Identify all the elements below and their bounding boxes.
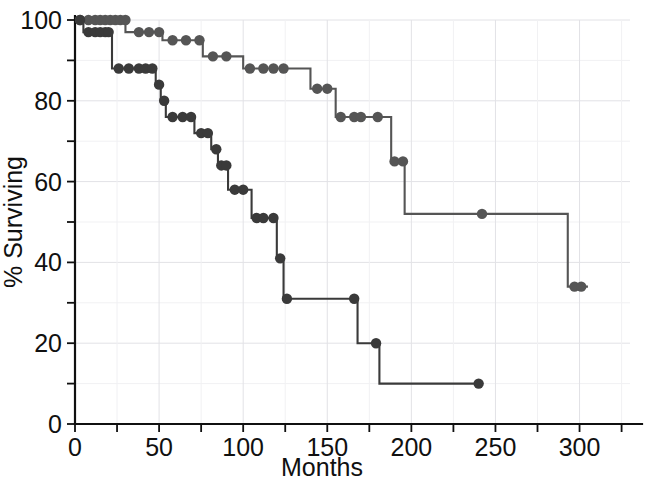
censor-marker <box>114 63 124 73</box>
censor-marker <box>159 96 169 106</box>
tick-marks <box>67 20 622 432</box>
censor-marker <box>322 83 332 93</box>
chart-canvas: 050100150200250300 020406080100 Months %… <box>0 0 645 480</box>
x-tick-label: 100 <box>222 433 264 461</box>
censor-marker <box>477 209 487 219</box>
censor-marker <box>336 112 346 122</box>
censor-marker <box>186 112 196 122</box>
censor-marker <box>576 281 586 291</box>
censor-marker <box>134 27 144 37</box>
x-tick-label: 200 <box>391 433 433 461</box>
y-axis-title: % Surviving <box>0 156 27 288</box>
censor-marker <box>356 112 366 122</box>
y-tick-label: 20 <box>34 329 62 357</box>
censor-marker <box>144 27 154 37</box>
censor-marker <box>154 27 164 37</box>
censor-marker <box>258 213 268 223</box>
y-tick-label: 100 <box>20 6 62 34</box>
y-tick-label: 40 <box>34 248 62 276</box>
censor-marker <box>268 63 278 73</box>
y-tick-label: 80 <box>34 87 62 115</box>
x-tick-label: 250 <box>475 433 517 461</box>
censor-marker <box>167 112 177 122</box>
censor-marker <box>154 79 164 89</box>
censor-marker <box>211 144 221 154</box>
censor-marker <box>398 156 408 166</box>
censor-marker <box>194 35 204 45</box>
censor-marker <box>75 15 85 25</box>
censor-marker <box>268 213 278 223</box>
censor-marker <box>208 51 218 61</box>
censor-marker <box>282 294 292 304</box>
censor-marker <box>245 63 255 73</box>
x-tick-label: 300 <box>559 433 601 461</box>
axis-lines <box>75 16 642 424</box>
censor-marker <box>373 112 383 122</box>
censor-marker <box>221 51 231 61</box>
censor-marker <box>124 63 134 73</box>
censor-marker <box>203 128 213 138</box>
series-lines <box>75 20 588 384</box>
x-tick-label: 0 <box>68 433 82 461</box>
y-tick-label: 60 <box>34 168 62 196</box>
censor-marker <box>278 63 288 73</box>
censor-marker <box>147 63 157 73</box>
censor-markers <box>75 15 587 389</box>
survival-curve <box>75 20 482 384</box>
x-tick-label: 50 <box>145 433 173 461</box>
censor-marker <box>371 338 381 348</box>
x-axis-title: Months <box>281 453 363 480</box>
censor-marker <box>349 294 359 304</box>
censor-marker <box>473 378 483 388</box>
censor-marker <box>221 160 231 170</box>
y-tick-label: 0 <box>48 410 62 438</box>
censor-marker <box>181 35 191 45</box>
survival-chart: 050100150200250300 020406080100 Months %… <box>0 0 645 480</box>
censor-marker <box>167 35 177 45</box>
censor-marker <box>312 83 322 93</box>
censor-marker <box>258 63 268 73</box>
censor-marker <box>275 253 285 263</box>
censor-marker <box>238 184 248 194</box>
censor-marker <box>120 15 130 25</box>
censor-marker <box>103 27 113 37</box>
